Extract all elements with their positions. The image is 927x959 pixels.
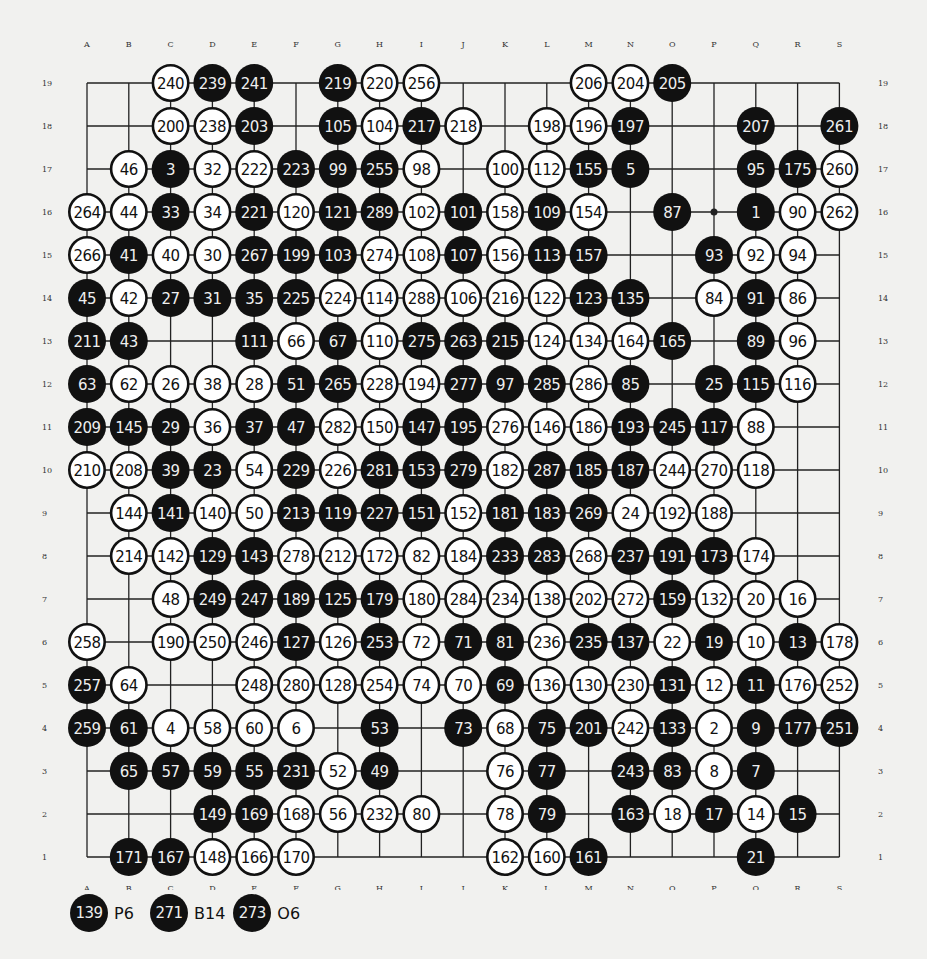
move-number: 164	[617, 333, 644, 351]
row-label: 5	[878, 681, 883, 690]
move-number: 148	[199, 849, 226, 867]
black-stone: 215	[486, 322, 524, 360]
black-stone: 227	[361, 494, 399, 532]
row-label: 19	[42, 79, 52, 88]
move-number: 113	[533, 247, 560, 265]
black-stone: 209	[68, 408, 106, 446]
column-label: I	[420, 884, 423, 890]
move-number: 202	[575, 591, 602, 609]
move-number: 72	[412, 634, 430, 652]
black-stone: 43	[110, 322, 148, 360]
move-number: 196	[575, 118, 602, 136]
white-stone: 234	[487, 581, 522, 616]
black-stone: 243	[611, 752, 649, 790]
move-number: 43	[120, 333, 138, 351]
black-stone: 99	[319, 150, 357, 188]
legend-coordinate: B14	[194, 904, 225, 923]
white-stone: 198	[529, 108, 564, 143]
white-stone: 152	[446, 495, 481, 530]
move-number: 53	[371, 720, 389, 738]
move-number: 253	[366, 634, 393, 652]
white-stone: 182	[487, 452, 522, 487]
move-number: 254	[366, 677, 393, 695]
white-stone: 18	[655, 796, 690, 831]
black-stone: 109	[528, 193, 566, 231]
move-number: 11	[747, 677, 765, 695]
black-stone: 143	[235, 537, 273, 575]
black-stone: 231	[277, 752, 315, 790]
white-stone: 154	[571, 194, 606, 229]
move-number: 226	[324, 462, 351, 480]
black-stone: 187	[611, 451, 649, 489]
row-label: 8	[878, 552, 883, 561]
white-stone: 180	[404, 581, 439, 616]
move-number: 288	[408, 290, 435, 308]
column-label: R	[795, 884, 802, 890]
black-stone: 103	[319, 236, 357, 274]
row-label: 14	[878, 294, 888, 303]
move-number: 1	[751, 204, 760, 222]
black-stone: 89	[737, 322, 775, 360]
row-label: 18	[42, 122, 52, 131]
move-number: 257	[73, 677, 100, 695]
move-number: 177	[784, 720, 811, 738]
white-stone: 146	[529, 409, 564, 444]
white-stone: 116	[780, 366, 815, 401]
move-number: 204	[617, 75, 644, 93]
move-number: 105	[324, 118, 351, 136]
black-stone: 47	[277, 408, 315, 446]
move-number: 145	[115, 419, 142, 437]
white-stone: 144	[111, 495, 146, 530]
move-number: 135	[617, 290, 644, 308]
move-number: 19	[705, 634, 723, 652]
move-number: 216	[491, 290, 518, 308]
black-stone: 253	[361, 623, 399, 661]
black-stone: 139	[70, 894, 108, 932]
move-number: 120	[282, 204, 309, 222]
move-number: 259	[73, 720, 100, 738]
move-number: 147	[408, 419, 435, 437]
black-stone: 221	[235, 193, 273, 231]
move-number: 210	[73, 462, 100, 480]
white-stone: 242	[613, 710, 648, 745]
white-stone: 26	[153, 366, 188, 401]
star-points	[711, 209, 718, 216]
move-number: 132	[700, 591, 727, 609]
black-stone: 281	[361, 451, 399, 489]
move-number: 194	[408, 376, 435, 394]
row-label: 1	[42, 853, 47, 862]
move-number: 263	[450, 333, 477, 351]
move-number: 170	[282, 849, 309, 867]
white-stone: 228	[362, 366, 397, 401]
black-stone: 183	[528, 494, 566, 532]
white-stone: 220	[362, 65, 397, 100]
move-number: 10	[747, 634, 765, 652]
white-stone: 98	[404, 151, 439, 186]
move-number: 166	[241, 849, 268, 867]
move-number: 88	[747, 419, 765, 437]
column-label: K	[502, 40, 509, 49]
white-stone: 240	[153, 65, 188, 100]
black-stone: 203	[235, 107, 273, 145]
move-number: 286	[575, 376, 602, 394]
legend-coordinate: O6	[277, 904, 305, 923]
move-number: 141	[157, 505, 184, 523]
black-stone: 19	[695, 623, 733, 661]
move-number: 144	[115, 505, 142, 523]
white-stone: 226	[320, 452, 355, 487]
white-stone: 70	[446, 667, 481, 702]
move-number: 198	[533, 118, 560, 136]
black-stone: 57	[152, 752, 190, 790]
black-stone: 117	[695, 408, 733, 446]
move-number: 171	[115, 849, 142, 867]
white-stone: 158	[487, 194, 522, 229]
column-label: D	[209, 40, 215, 49]
black-stone: 163	[611, 795, 649, 833]
move-number: 156	[491, 247, 518, 265]
move-number: 278	[282, 548, 309, 566]
move-number: 98	[412, 161, 430, 179]
white-stone: 96	[780, 323, 815, 358]
move-number: 275	[408, 333, 435, 351]
move-number: 160	[533, 849, 560, 867]
move-number: 261	[826, 118, 853, 136]
